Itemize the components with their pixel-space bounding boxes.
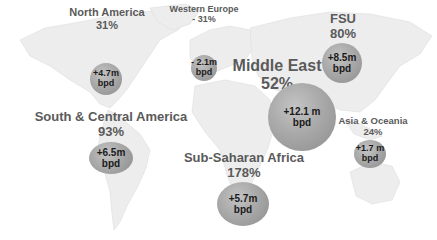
western-europe-label: Western Europe - 31% [170,4,239,25]
sub-saharan-africa-bubble: +5.7m bpd [217,182,269,226]
region-percent: 93% [35,125,188,140]
region-name: Middle East [233,57,322,75]
region-name: North America [69,6,144,19]
south-central-america-label: South & Central America 93% [35,110,188,140]
region-name: South & Central America [35,110,188,125]
world-map: North America 31% +4.7m bpd Western Euro… [0,0,437,240]
asia-oceania-bubble: +1.7 m bpd [354,140,386,168]
region-name: Western Europe [170,4,239,14]
bubble-unit: bpd [196,68,213,78]
region-name: Sub-Saharan Africa [184,151,304,166]
asia-oceania-label: Asia & Oceania 24% [338,115,407,138]
sub-saharan-africa-label: Sub-Saharan Africa 178% [184,151,304,181]
region-percent: 80% [330,27,356,42]
region-name: FSU [330,12,356,27]
region-percent: 24% [338,126,407,137]
bubble-change: +12.1 m [284,106,321,117]
south-central-america-bubble: +6.5m bpd [89,142,133,174]
north-america-bubble: +4.7m bpd [90,63,122,95]
western-europe-bubble: - 2.1m bpd [191,55,217,81]
bubble-unit: bpd [234,204,252,215]
bubble-unit: bpd [98,79,115,89]
bubble-change: +5.7m [229,193,258,204]
region-percent: 178% [184,166,304,181]
bubble-unit: bpd [102,158,120,169]
region-percent: - 31% [170,14,239,24]
north-america-label: North America 31% [69,6,144,31]
bubble-change: +6.5m [97,147,126,158]
middle-east-bubble: +12.1 m bpd [268,83,336,151]
bubble-unit: bpd [362,154,379,164]
bubble-unit: bpd [293,117,311,128]
region-percent: 31% [69,19,144,32]
fsu-label: FSU 80% [330,12,356,42]
region-name: Asia & Oceania [338,115,407,126]
bubble-unit: bpd [333,63,351,74]
bubble-change: +8.5m [328,52,357,63]
australia-landmass [350,162,400,204]
fsu-bubble: +8.5m bpd [322,43,362,83]
